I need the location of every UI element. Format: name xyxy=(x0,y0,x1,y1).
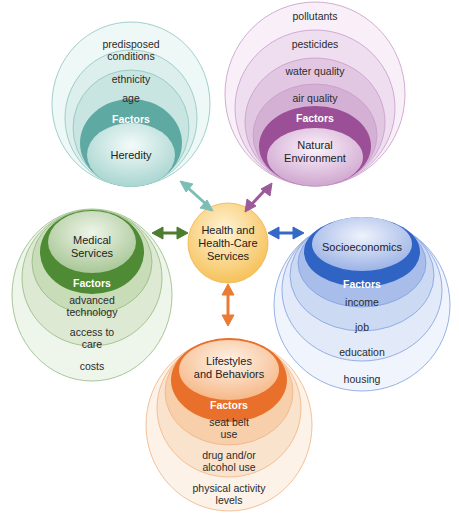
lifestyles-core-label: Lifestyles and Behaviors xyxy=(194,355,264,381)
factor-job: job xyxy=(355,321,369,333)
factor-air-quality: air quality xyxy=(293,92,338,104)
medical-services-core-label: Medical Services xyxy=(71,234,113,260)
center-label: Health and Health-Care Services xyxy=(198,224,257,263)
factor-water-quality: water quality xyxy=(286,65,345,77)
lifestyles-factors-label: Factors xyxy=(210,399,248,411)
factor-ethnicity: ethnicity xyxy=(112,73,151,85)
socioeconomics-factors-label: Factors xyxy=(343,278,381,290)
factor-age: age xyxy=(122,92,140,104)
factor-seat-belt-use: seat belt use xyxy=(209,416,249,440)
arrow-natural-environment xyxy=(245,183,272,212)
health-determinants-diagram: Health and Health-Care Services predispo… xyxy=(0,0,459,516)
factor-drug-alcohol-use: drug and/or alcohol use xyxy=(202,449,256,473)
factor-physical-activity-levels: physical activity levels xyxy=(193,482,266,506)
heredity-factors-label: Factors xyxy=(112,113,150,125)
factor-education: education xyxy=(339,346,385,358)
natural-environment-core-label: Natural Environment xyxy=(284,139,346,165)
natural-environment-factors-label: Factors xyxy=(296,112,334,124)
factor-pesticides: pesticides xyxy=(292,38,339,50)
factor-income: income xyxy=(345,296,379,308)
factor-advanced-technology: advanced technology xyxy=(67,294,118,318)
factor-access-to-care: access to care xyxy=(70,326,114,350)
socioeconomics-core-label: Socioeconomics xyxy=(322,241,402,254)
arrow-lifestyles xyxy=(222,284,234,326)
factor-housing: housing xyxy=(344,373,381,385)
medical-services-factors-label: Factors xyxy=(73,277,111,289)
heredity-core-label: Heredity xyxy=(111,149,152,162)
factor-pollutants: pollutants xyxy=(293,10,338,22)
factor-costs: costs xyxy=(80,360,105,372)
arrow-socioeconomics xyxy=(268,227,304,239)
arrow-medical-services xyxy=(152,227,188,239)
factor-predisposed-conditions: predisposed conditions xyxy=(102,38,159,62)
arrow-heredity xyxy=(180,181,213,211)
